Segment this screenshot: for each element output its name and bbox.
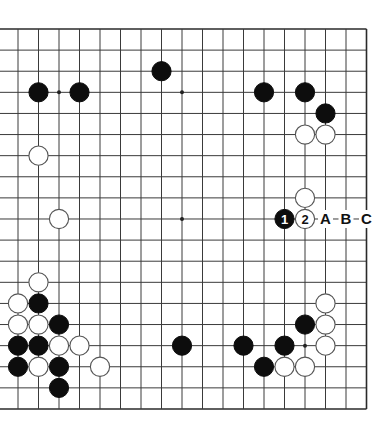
black-stone-icon xyxy=(49,357,68,376)
label-letter: B xyxy=(341,210,352,227)
white-stone-icon xyxy=(29,146,48,165)
white-stone-icon xyxy=(29,315,48,334)
label-letter: A xyxy=(320,210,331,227)
white-stone-icon xyxy=(49,336,68,355)
white-stone-icon xyxy=(316,336,335,355)
numbered-move-1: 1 xyxy=(275,209,294,228)
black-stone-icon xyxy=(295,315,314,334)
white-stone-icon xyxy=(295,125,314,144)
black-stone-icon xyxy=(152,62,171,81)
white-stone-icon xyxy=(29,273,48,292)
star-point-icon xyxy=(180,90,184,94)
white-stone-icon xyxy=(295,357,314,376)
white-stone-icon xyxy=(316,125,335,144)
white-stone-icon xyxy=(49,209,68,228)
white-stone-icon xyxy=(316,315,335,334)
black-stone-icon xyxy=(234,336,253,355)
white-stone-icon xyxy=(316,294,335,313)
black-stone-icon xyxy=(49,315,68,334)
star-point-icon xyxy=(57,90,61,94)
black-stone-icon xyxy=(254,83,273,102)
black-stone-icon xyxy=(49,378,68,397)
numbered-move-2: 2 xyxy=(295,209,314,228)
letter-labels-layer: ABC xyxy=(318,210,374,228)
white-stone-icon xyxy=(8,294,27,313)
black-stone-icon xyxy=(295,83,314,102)
white-stone-icon xyxy=(8,315,27,334)
star-point-icon xyxy=(303,344,307,348)
move-number: 2 xyxy=(301,212,308,227)
black-stone-icon xyxy=(29,83,48,102)
white-stone-icon xyxy=(275,357,294,376)
go-board-diagram: 12 ABC xyxy=(0,0,374,422)
black-stone-icon xyxy=(172,336,191,355)
black-stone-icon xyxy=(29,294,48,313)
white-stone-icon xyxy=(70,336,89,355)
white-stone-icon xyxy=(295,188,314,207)
black-stone-icon xyxy=(8,336,27,355)
stones-layer xyxy=(8,62,335,398)
move-number: 1 xyxy=(281,212,288,227)
star-point-icon xyxy=(180,217,184,221)
label-letter: C xyxy=(361,210,372,227)
label-C: C xyxy=(359,210,374,228)
white-stone-icon xyxy=(29,357,48,376)
black-stone-icon xyxy=(275,336,294,355)
label-A: A xyxy=(318,210,333,228)
black-stone-icon xyxy=(254,357,273,376)
black-stone-icon xyxy=(316,104,335,123)
white-stone-icon xyxy=(90,357,109,376)
black-stone-icon xyxy=(70,83,89,102)
black-stone-icon xyxy=(29,336,48,355)
black-stone-icon xyxy=(8,357,27,376)
label-B: B xyxy=(339,210,354,228)
